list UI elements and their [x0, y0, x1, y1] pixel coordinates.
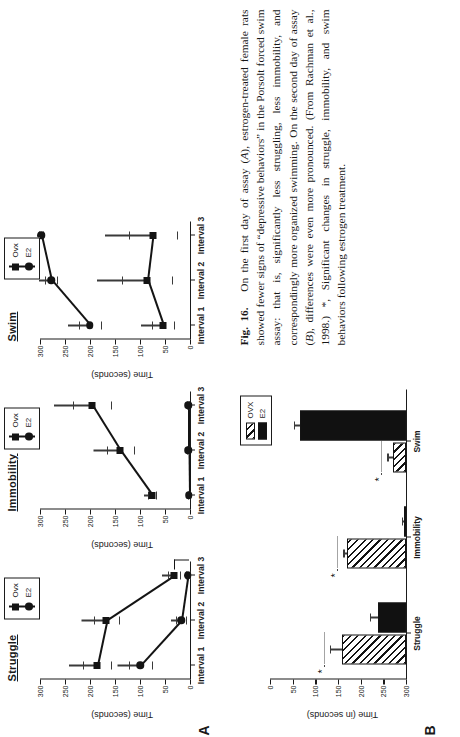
y-tick-label: 100	[137, 345, 144, 357]
y-tick-label: 200	[87, 345, 94, 357]
legend-row: Ovx	[9, 243, 22, 273]
y-tick	[190, 509, 191, 514]
caption-text: Fig. 16. On the first day of assay (A), …	[236, 9, 349, 345]
data-point-E2	[86, 321, 94, 329]
legend-row: OVX	[244, 401, 256, 439]
x-tick	[406, 536, 411, 537]
series-line-Ovx	[106, 574, 175, 620]
panel-a-label: A	[196, 725, 212, 735]
caption-seg-1: On the first day of assay (	[238, 159, 250, 291]
figure-caption: Fig. 16. On the first day of assay (A), …	[236, 9, 452, 345]
y-tick-label: 100	[137, 515, 144, 527]
legend-row: E2	[22, 413, 35, 443]
x-tick-label: Interval 1	[196, 306, 206, 343]
bar-E2-swim	[300, 410, 406, 440]
y-tick-label: 250	[62, 345, 69, 357]
error-cap-bottom	[57, 276, 58, 284]
x-tick	[406, 440, 411, 441]
y-tick	[40, 509, 41, 514]
error-cap-bottom	[172, 276, 173, 284]
circle-marker-icon	[22, 600, 35, 613]
series-line-E2	[188, 450, 190, 495]
legend-struggle: OvxE2	[4, 577, 40, 619]
y-tick	[140, 509, 141, 514]
x-tick-label: Interval 2	[196, 431, 206, 468]
y-tick-label: 200	[357, 685, 364, 697]
legend-row: E2	[256, 401, 268, 439]
significance-star: *	[317, 669, 328, 673]
y-tick-label: 0	[187, 685, 194, 689]
plot-struggle: Struggle300250200150100500Time (seconds)…	[40, 561, 190, 679]
legend-panel-b: OVXE2	[240, 395, 272, 445]
legend-immobility: OvxE2	[4, 407, 40, 449]
y-tick-label: 50	[162, 685, 169, 693]
legend-label: E2	[24, 417, 33, 427]
panel-b: B 050100150200250300Time (in seconds)Str…	[236, 365, 452, 737]
legend-glyph	[25, 263, 33, 271]
plot-immobility: Immobility300250200150100500Time (second…	[40, 391, 190, 509]
x-tick	[190, 664, 195, 665]
y-tick-label: 150	[335, 685, 342, 697]
y-tick-label: 50	[162, 345, 169, 353]
y-tick-label: 100	[137, 685, 144, 697]
y-tick	[190, 679, 191, 684]
legend-glyph	[12, 603, 19, 610]
figure-number: Fig. 16.	[238, 307, 250, 345]
error-cap-bottom	[119, 616, 120, 624]
data-point-Ovx	[89, 402, 96, 409]
y-tick-label: 0	[267, 685, 274, 689]
error-cap-bottom	[177, 231, 178, 239]
y-tick-label: 200	[87, 515, 94, 527]
x-tick	[406, 632, 411, 633]
series-line-E2	[41, 235, 53, 280]
y-tick	[65, 679, 66, 684]
error-cap-top	[83, 661, 84, 669]
y-axis-title: Time (seconds)	[91, 539, 153, 549]
significance-dotted-line	[324, 632, 325, 666]
legend-glyph	[25, 433, 33, 441]
error-cap-top	[73, 401, 74, 409]
solid-swatch-icon	[258, 422, 267, 439]
y-tick	[140, 339, 141, 344]
y-tick	[115, 509, 116, 514]
y-tick	[338, 679, 339, 684]
series-line-Ovx	[97, 620, 108, 665]
data-point-E2	[177, 616, 185, 624]
data-point-Ovx	[171, 572, 178, 579]
y-tick-label: 200	[87, 685, 94, 697]
y-tick-label: 250	[62, 515, 69, 527]
plot-panel-b: 050100150200250300Time (in seconds)Strug…	[270, 389, 406, 679]
series-line-E2	[140, 619, 182, 665]
square-marker-icon	[9, 600, 22, 613]
data-point-Ovx	[117, 447, 124, 454]
series-line-E2	[51, 279, 91, 325]
y-tick-label: 0	[187, 345, 194, 349]
legend-row: Ovx	[9, 413, 22, 443]
circle-marker-icon	[22, 260, 35, 273]
y-tick-label: 300	[37, 515, 44, 527]
data-point-E2	[184, 446, 192, 454]
plot-title-immobility: Immobility	[6, 453, 18, 511]
error-bar	[330, 648, 342, 649]
bar-OVX-struggle	[342, 634, 406, 664]
y-tick	[165, 679, 166, 684]
error-cap	[330, 645, 331, 653]
plot-swim: Swim300250200150100500Time (seconds)Inte…	[40, 221, 190, 339]
x-tick-label: Interval 1	[196, 476, 206, 513]
legend-row: E2	[22, 243, 35, 273]
legend-glyph	[12, 263, 19, 270]
y-tick	[115, 679, 116, 684]
error-cap-bottom	[156, 491, 157, 499]
y-axis-title: Time (in seconds)	[307, 709, 378, 719]
panel-b-label: B	[422, 725, 438, 735]
x-tick-label: Immobility	[412, 516, 422, 559]
y-tick-label: 100	[312, 685, 319, 697]
x-tick	[190, 234, 195, 235]
data-point-E2	[185, 491, 193, 499]
error-cap-top	[129, 231, 130, 239]
error-cap-top	[168, 571, 169, 579]
x-tick-label: Interval 3	[196, 556, 206, 593]
x-tick-label: Struggle	[412, 616, 422, 650]
error-cap-bottom	[101, 321, 102, 329]
y-tick-label: 150	[112, 685, 119, 697]
